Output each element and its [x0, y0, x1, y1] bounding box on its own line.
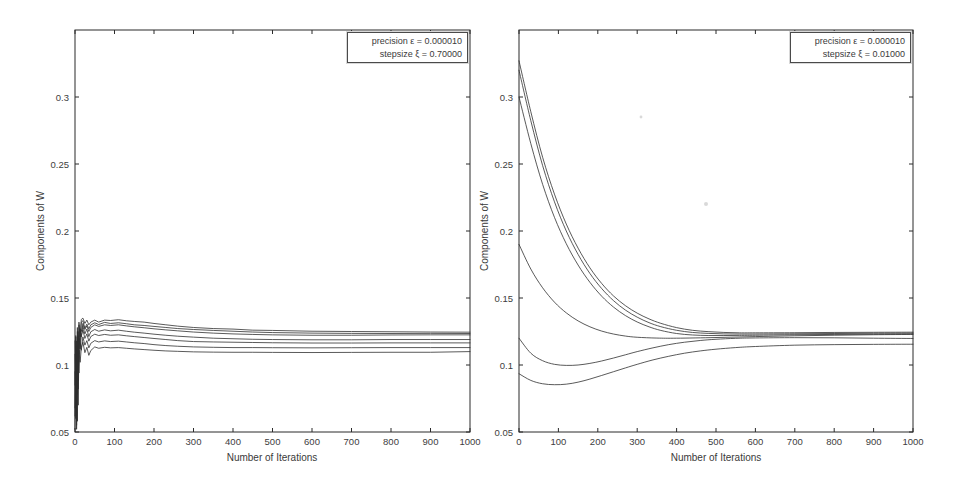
scan-speck — [704, 202, 708, 206]
y-tick-label: 0.1 — [500, 360, 513, 371]
x-tick-label: 1000 — [902, 436, 923, 447]
x-tick-label: 600 — [747, 436, 763, 447]
legend-stepsize-line: stepsize ξ = 0.01000 — [791, 48, 905, 61]
x-tick-label: 700 — [787, 436, 803, 447]
y-tick-label: 0.2 — [500, 226, 513, 237]
series-line-w5 — [519, 338, 913, 366]
y-tick-label: 0.05 — [495, 427, 514, 438]
series-line-w7 — [75, 342, 470, 429]
legend-left-plot: precision ε = 0.000010 stepsize ξ = 0.70… — [347, 32, 468, 63]
series-line-w6 — [519, 344, 913, 384]
x-tick-label: 300 — [186, 436, 202, 447]
y-axis-label-left-plot: Components of W — [35, 191, 46, 271]
x-tick-label: 200 — [146, 436, 162, 447]
x-tick-label: 400 — [669, 436, 685, 447]
x-tick-label: 600 — [304, 436, 320, 447]
x-tick-label: 100 — [550, 436, 566, 447]
x-tick-label: 300 — [629, 436, 645, 447]
x-tick-label: 900 — [866, 436, 882, 447]
legend-stepsize-line: stepsize ξ = 0.70000 — [348, 48, 462, 61]
x-tick-label: 200 — [590, 436, 606, 447]
x-tick-label: 500 — [708, 436, 724, 447]
figure: 010020030040050060070080090010000.050.10… — [0, 0, 965, 486]
legend-precision-line: precision ε = 0.000010 — [348, 35, 462, 48]
series-line-w1 — [519, 61, 913, 333]
y-tick-label: 0.15 — [495, 293, 514, 304]
series-line-w2 — [75, 321, 470, 430]
x-tick-label: 1000 — [459, 436, 480, 447]
x-axis-label-right-plot: Number of Iterations — [606, 452, 826, 463]
x-tick-label: 0 — [72, 436, 77, 447]
x-tick-label: 0 — [516, 436, 521, 447]
x-axis-label-left-plot: Number of Iterations — [162, 452, 382, 463]
series-line-w1 — [75, 318, 470, 425]
y-tick-label: 0.3 — [56, 92, 69, 103]
series-line-w3 — [519, 97, 913, 336]
x-tick-label: 900 — [423, 436, 439, 447]
legend-precision-line: precision ε = 0.000010 — [791, 35, 905, 48]
x-tick-label: 800 — [826, 436, 842, 447]
x-tick-label: 500 — [265, 436, 281, 447]
x-tick-label: 100 — [107, 436, 123, 447]
x-tick-label: 700 — [344, 436, 360, 447]
y-tick-label: 0.3 — [500, 92, 513, 103]
y-tick-label: 0.25 — [51, 159, 70, 170]
y-tick-label: 0.2 — [56, 226, 69, 237]
x-tick-label: 800 — [383, 436, 399, 447]
legend-right-plot: precision ε = 0.000010 stepsize ξ = 0.01… — [790, 32, 911, 63]
plot-frame — [519, 30, 913, 432]
y-axis-label-right-plot: Components of W — [479, 191, 490, 271]
y-tick-label: 0.05 — [51, 427, 70, 438]
series-line-w2 — [519, 70, 913, 334]
y-tick-label: 0.25 — [495, 159, 514, 170]
series-line-w6 — [75, 337, 470, 421]
plot-frame — [75, 30, 470, 432]
series-line-w4 — [519, 244, 913, 338]
y-tick-label: 0.1 — [56, 360, 69, 371]
scan-speck — [640, 116, 643, 119]
y-tick-label: 0.15 — [51, 293, 70, 304]
series-line-w3 — [75, 323, 470, 418]
x-tick-label: 400 — [225, 436, 241, 447]
